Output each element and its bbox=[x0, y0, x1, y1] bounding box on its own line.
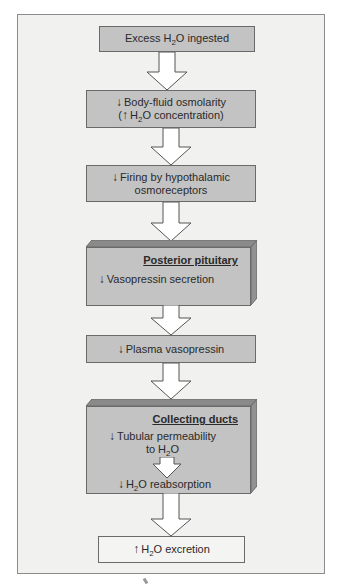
scan-mark bbox=[143, 578, 149, 585]
section-heading: Collecting ducts bbox=[152, 413, 238, 426]
flow-arrow-icon bbox=[149, 363, 193, 400]
flow-arrow-icon bbox=[149, 202, 193, 242]
box-water-excretion: ↑H2O excretion bbox=[98, 536, 245, 563]
box-excess-water-ingested: Excess H2O ingested bbox=[99, 26, 255, 52]
inner-flow-arrow-icon bbox=[152, 457, 182, 479]
box-body-fluid-osmolarity: ↓Body-fluid osmolarity (↑H2O concentrati… bbox=[86, 90, 256, 128]
down-arrow-icon: ↓ bbox=[118, 342, 124, 356]
box-collecting-ducts: Collecting ducts ↓Tubular permeability t… bbox=[86, 399, 257, 494]
step1-label: Excess H2O ingested bbox=[125, 32, 229, 46]
flow-arrow-icon bbox=[149, 305, 193, 336]
down-arrow-icon: ↓ bbox=[112, 170, 118, 184]
up-arrow-icon: ↑ bbox=[133, 542, 139, 556]
flow-arrow-icon bbox=[149, 493, 193, 537]
flow-arrow-icon bbox=[145, 52, 189, 91]
box-posterior-pituitary: Posterior pituitary ↓Vasopressin secreti… bbox=[86, 240, 257, 306]
flow-arrow-icon bbox=[149, 128, 193, 166]
box-hypothalamic-osmoreceptors: ↓Firing by hypothalamic osmoreceptors bbox=[86, 165, 256, 202]
down-arrow-icon: ↓ bbox=[99, 272, 105, 286]
down-arrow-icon: ↓ bbox=[118, 477, 124, 491]
section-heading: Posterior pituitary bbox=[143, 254, 238, 267]
up-arrow-icon: ↑ bbox=[122, 108, 128, 122]
down-arrow-icon: ↓ bbox=[109, 429, 115, 443]
box-plasma-vasopressin: ↓Plasma vasopressin bbox=[86, 335, 256, 363]
down-arrow-icon: ↓ bbox=[116, 95, 122, 109]
